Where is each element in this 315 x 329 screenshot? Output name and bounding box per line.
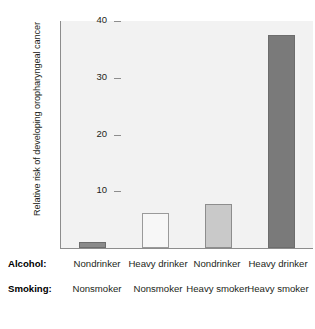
figure-caption	[6, 322, 315, 329]
y-axis-title: Relative risk of developing oropharyngea…	[32, 0, 42, 244]
bar-heavydrinker-nonsmoker	[142, 213, 169, 248]
bar-heavydrinker-heavysmoker	[268, 35, 295, 248]
alcohol-cell-0: Nondrinker	[63, 258, 131, 270]
smoking-row: Smoking: Nonsmoker Nonsmoker Heavy smoke…	[0, 283, 315, 309]
smoking-cell-3: Heavy smoker	[244, 283, 312, 295]
smoking-cell-2: Heavy smoker	[183, 283, 251, 295]
y-tick-label-10: 10	[77, 184, 107, 195]
alcohol-cell-1: Heavy drinker	[124, 258, 192, 270]
y-tick-label-40: 40	[77, 14, 107, 25]
y-tick-mark-40	[114, 21, 121, 22]
y-tick-label-30: 30	[77, 71, 107, 82]
y-tick-mark-20	[114, 135, 121, 136]
smoking-cell-0: Nonsmoker	[63, 283, 131, 295]
y-tick-mark-10	[114, 191, 121, 192]
y-tick-mark-30	[114, 78, 121, 79]
chart-figure: Relative risk of developing oropharyngea…	[0, 0, 315, 329]
bar-nondrinker-nonsmoker	[79, 242, 106, 248]
bar-nondrinker-heavysmoker	[205, 204, 232, 248]
alcohol-cell-3: Heavy drinker	[244, 258, 312, 270]
smoking-cell-1: Nonsmoker	[124, 283, 192, 295]
category-label-table: Alcohol: Nondrinker Heavy drinker Nondri…	[0, 258, 315, 309]
y-tick-label-20: 20	[77, 128, 107, 139]
alcohol-row: Alcohol: Nondrinker Heavy drinker Nondri…	[0, 258, 315, 283]
plot-area: 40 30 20 10	[60, 21, 313, 249]
alcohol-cell-2: Nondrinker	[183, 258, 251, 270]
